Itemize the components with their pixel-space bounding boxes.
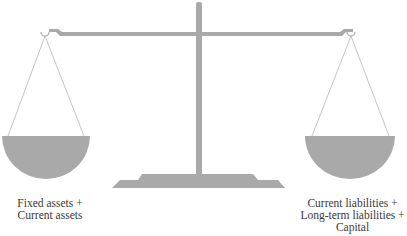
right-label-line: Long-term liabilities + xyxy=(300,209,405,221)
left-label-line: Fixed assets + xyxy=(12,197,88,209)
left-hook-icon xyxy=(41,32,49,36)
left-pan xyxy=(2,136,90,179)
right-string xyxy=(351,36,389,136)
left-string xyxy=(45,36,84,136)
left-label-line: Current assets xyxy=(12,209,88,221)
right-label-line: Current liabilities + xyxy=(300,197,405,209)
right-pan-label: Current liabilities + Long-term liabilit… xyxy=(300,197,405,233)
right-hook-icon xyxy=(347,32,355,36)
right-string xyxy=(312,36,351,136)
scale-base xyxy=(112,174,285,188)
left-string xyxy=(8,36,45,136)
scale-post xyxy=(196,2,202,176)
left-pan-label: Fixed assets + Current assets xyxy=(12,197,88,221)
right-label-line: Capital xyxy=(300,221,405,233)
right-pan xyxy=(305,136,395,179)
